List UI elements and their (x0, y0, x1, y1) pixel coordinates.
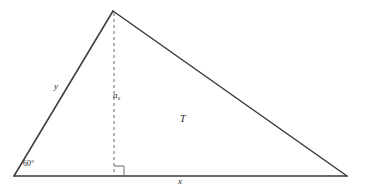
right-angle-marker-icon (114, 166, 124, 176)
geometry-figure: 60° y ax T x (0, 0, 369, 192)
triangle-left-edge (14, 11, 113, 176)
triangle-right-edge (113, 11, 347, 176)
altitude-label-base: a (113, 90, 118, 100)
base-label: x (178, 177, 182, 186)
altitude-label: ax (113, 91, 120, 100)
interior-region-label: T (180, 114, 186, 124)
altitude-label-subscript: x (118, 95, 120, 101)
angle-label: 60° (23, 160, 34, 168)
triangle-diagram-svg (0, 0, 369, 192)
left-side-label: y (54, 82, 58, 91)
